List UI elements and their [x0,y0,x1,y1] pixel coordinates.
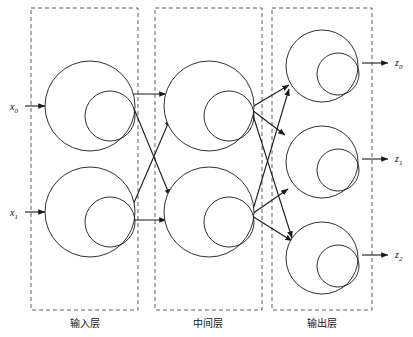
neuron-h0 [164,61,254,151]
neuron-nodes [45,30,359,294]
neuron-h1 [164,167,254,257]
layer-caption-hidden: 中间层 [193,317,223,329]
layer-caption-output: 输出层 [307,317,337,329]
neuron-z2 [286,222,358,294]
edge-h0-z0 [252,85,289,107]
neuron-x1 [45,167,135,257]
edge-h1-z1 [252,189,288,214]
edge-x0-h1 [130,99,170,196]
input-label-x0: x0 [9,101,18,115]
layer-captions: 输入层中间层输出层 [70,317,337,329]
diagram-canvas: x0x1z0z1z2 输入层中间层输出层 [0,0,413,337]
neural-network-diagram: x0x1z0z1z2 输入层中间层输出层 [0,0,413,337]
neuron-z0 [286,30,358,102]
edge-x1-h0 [130,119,170,212]
output-label-z2: z2 [394,249,403,263]
input-label-x1: x1 [9,207,18,221]
layer-caption-input: 输入层 [70,317,100,329]
layer-box-hidden [155,8,262,310]
output-label-z0: z0 [394,57,403,71]
edge-h0-z1 [252,110,285,135]
layer-box-input [31,8,138,310]
neuron-x0 [45,61,135,151]
neuron-z1 [286,126,358,198]
edge-h1-z0 [252,89,289,213]
output-label-z1: z1 [394,153,402,167]
